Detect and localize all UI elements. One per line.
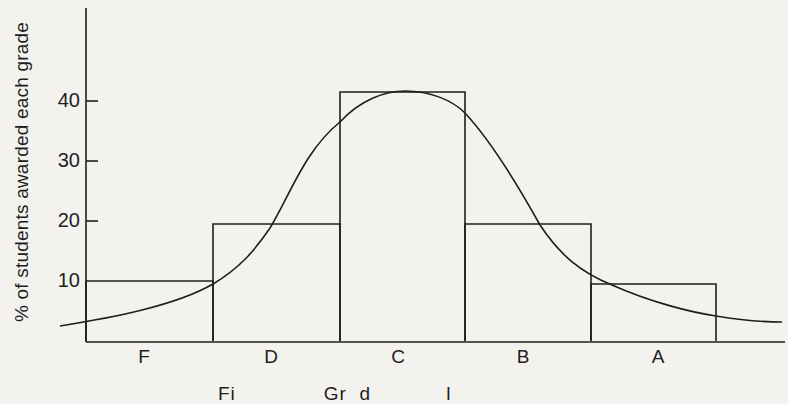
y-tick-label-30: 30 xyxy=(40,149,80,172)
bar-c xyxy=(340,92,465,341)
x-category-f: F xyxy=(124,346,164,368)
y-ticks xyxy=(86,101,98,221)
bar-f xyxy=(86,281,213,341)
bar-d xyxy=(213,224,340,341)
y-tick-label-40: 40 xyxy=(40,89,80,112)
x-category-d: D xyxy=(251,346,291,368)
x-category-a: A xyxy=(638,346,678,368)
figure-caption-cropped: Fi Gr d l xyxy=(218,383,452,404)
histogram-bars xyxy=(86,92,716,341)
y-tick-label-20: 20 xyxy=(40,209,80,232)
normal-curve xyxy=(60,91,782,326)
bar-b xyxy=(465,224,591,341)
y-tick-label-10: 10 xyxy=(40,269,80,292)
x-category-c: C xyxy=(378,346,418,368)
x-category-b: B xyxy=(503,346,543,368)
y-axis-label: % of students awarded each grade xyxy=(11,22,33,322)
